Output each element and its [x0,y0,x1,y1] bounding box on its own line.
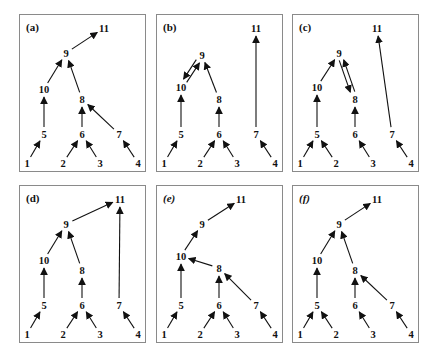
graph-b: 1510926387114 [157,15,284,173]
arrow-8-to-9 [344,60,355,92]
arrow-3-to-6 [359,312,369,328]
node-10: 10 [39,84,50,95]
arrow-4-to-7 [260,312,271,328]
node-6: 6 [79,129,84,140]
node-1: 1 [297,158,302,169]
arrow-10-to-9 [48,231,62,254]
arrow-8-to-9 [69,61,80,93]
node-9: 9 [63,48,68,59]
node-10: 10 [39,255,50,266]
node-2: 2 [60,329,65,340]
node-9: 9 [336,48,341,59]
node-3: 3 [370,158,375,169]
node-2: 2 [197,329,202,340]
arrow-9-to-8 [339,60,350,92]
arrow-4-to-7 [396,141,407,157]
node-6: 6 [352,300,357,311]
arrow-3-to-6 [223,312,233,328]
node-3: 3 [370,329,375,340]
arrow-2-to-6 [204,312,215,328]
arrow-10-to-9 [48,60,62,83]
node-5: 5 [178,129,183,140]
node-11: 11 [372,194,382,205]
graph-d: 1510911263874 [20,186,147,344]
node-11: 11 [236,194,246,205]
node-4: 4 [135,329,141,340]
arrow-9-to-11 [345,203,370,220]
node-3: 3 [97,329,102,340]
node-5: 5 [314,129,319,140]
node-4: 4 [408,158,414,169]
arrow-1-to-5 [304,312,313,328]
arrow-9-to-11 [72,32,97,49]
node-3: 3 [234,329,239,340]
arrow-2-to-6 [67,312,78,328]
arrow-9-to-11 [208,203,234,220]
node-8: 8 [79,265,84,276]
arrow-2-to-5 [321,141,332,157]
node-6: 6 [79,300,84,311]
node-8: 8 [216,94,221,105]
node-8: 8 [79,94,84,105]
node-6: 6 [352,129,357,140]
arrow-10-to-9 [187,63,200,82]
node-2: 2 [333,329,338,340]
arrow-8-to-9 [342,232,353,264]
node-4: 4 [135,158,141,169]
arrow-3-to-6 [86,141,96,157]
node-1: 1 [161,158,166,169]
node-9: 9 [199,219,204,230]
panel-a: (a)1510911263874 [19,14,146,172]
node-1: 1 [161,329,166,340]
node-11: 11 [115,194,125,205]
arrow-3-to-6 [223,141,233,157]
node-11: 11 [99,23,109,34]
node-9: 9 [336,219,341,230]
arrow-8-to-9 [69,232,80,264]
node-3: 3 [97,158,102,169]
node-8: 8 [352,265,357,276]
arrow-8-to-10 [189,258,213,265]
arrow-7-to-8 [225,274,251,300]
node-10: 10 [176,82,187,93]
node-2: 2 [197,158,202,169]
arrow-10-to-9 [321,60,335,81]
node-6: 6 [216,129,221,140]
node-7: 7 [389,129,394,140]
node-7: 7 [116,300,121,311]
arrow-1-to-5 [304,141,313,157]
arrow-4-to-7 [260,141,271,157]
arrow-9-to-10 [184,60,197,79]
node-5: 5 [41,129,46,140]
panel-d: (d)1510911263874 [19,185,146,343]
graph-e: 1510911263874 [157,186,284,344]
panel-b: (b)1510926387114 [156,14,283,172]
node-8: 8 [352,94,357,105]
node-11: 11 [372,23,382,34]
arrow-7-to-8 [88,104,114,129]
node-9: 9 [63,219,68,230]
panel-c: (c)1521098367114 [292,14,419,172]
node-7: 7 [389,300,394,311]
panel-f: (f)1521091136874 [292,185,419,343]
arrow-2-to-6 [204,141,215,157]
panel-e: (e)1510911263874 [156,185,283,343]
node-9: 9 [199,50,204,61]
node-7: 7 [116,129,121,140]
arrow-9-to-11 [72,202,112,221]
node-8: 8 [216,263,221,274]
node-1: 1 [24,158,29,169]
arrow-7-to-8 [361,275,387,300]
arrow-4-to-7 [123,312,134,328]
node-5: 5 [41,300,46,311]
arrow-4-to-7 [123,141,134,157]
arrow-4-to-7 [396,312,407,328]
node-10: 10 [176,251,187,262]
node-11: 11 [251,23,261,34]
node-5: 5 [314,300,319,311]
arrow-1-to-5 [31,312,40,328]
node-4: 4 [272,158,278,169]
arrow-10-to-9 [321,231,335,254]
node-4: 4 [408,329,414,340]
graph-c: 1521098367114 [293,15,420,173]
